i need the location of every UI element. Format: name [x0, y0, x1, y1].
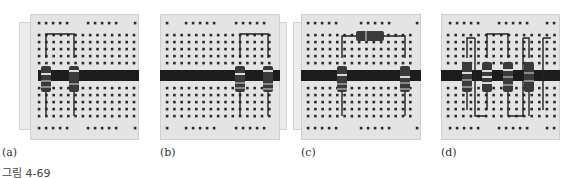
- resistor-band: [400, 88, 410, 90]
- panel-d: (d): [425, 0, 577, 160]
- panel-label: (d): [441, 146, 457, 159]
- resistor-band: [482, 76, 492, 78]
- resistor-band: [337, 83, 347, 85]
- resistor: [524, 62, 534, 92]
- resistor-band: [400, 82, 410, 84]
- resistor-band: [365, 31, 367, 41]
- resistor-band: [462, 72, 472, 74]
- resistor-band: [41, 86, 51, 88]
- conductor-strip: [441, 70, 560, 81]
- resistor-band: [400, 76, 410, 78]
- resistor-band: [263, 70, 273, 72]
- resistor-band: [69, 70, 79, 72]
- figure-caption: 그림 4-69: [2, 164, 50, 178]
- resistor-band: [524, 72, 534, 74]
- panel-c: (c): [280, 0, 430, 160]
- panel-label: (a): [2, 146, 17, 159]
- resistor-band: [69, 83, 79, 85]
- resistor: [41, 66, 51, 92]
- resistor: [356, 31, 384, 41]
- resistor-band: [41, 73, 51, 75]
- resistor-band: [41, 80, 51, 82]
- resistor-band: [462, 86, 472, 88]
- resistor: [69, 66, 79, 92]
- resistor-band: [462, 79, 472, 81]
- resistor-band: [503, 69, 513, 71]
- resistor-band: [235, 73, 245, 75]
- panel-label: (c): [301, 146, 316, 159]
- breadboard-circuit-d: [425, 0, 577, 160]
- panel-label: (b): [160, 146, 176, 159]
- conductor-strip: [160, 70, 280, 81]
- resistor-band: [337, 88, 347, 90]
- resistor-band: [524, 80, 534, 82]
- resistor-band: [482, 70, 492, 72]
- resistor-band: [503, 84, 513, 86]
- panel-a: (a): [0, 0, 145, 160]
- breadboard-circuit-c: [280, 0, 430, 160]
- resistor-band: [503, 76, 513, 78]
- resistor-band: [337, 74, 347, 76]
- resistor-band: [235, 87, 245, 89]
- jumper-wire: [342, 36, 356, 58]
- resistor-band: [235, 82, 245, 84]
- resistor-band: [263, 88, 273, 90]
- breadboard-circuit-a: [0, 0, 145, 160]
- jumper-wire: [467, 88, 529, 116]
- jumper-wire: [384, 36, 405, 58]
- conductor-strip: [38, 70, 139, 81]
- breadboard-circuit-b: [140, 0, 290, 160]
- jumper-wire: [487, 34, 508, 58]
- jumper-wire: [487, 88, 508, 116]
- resistor-band: [263, 83, 273, 85]
- resistor-band: [482, 82, 492, 84]
- panel-b: (b): [140, 0, 290, 160]
